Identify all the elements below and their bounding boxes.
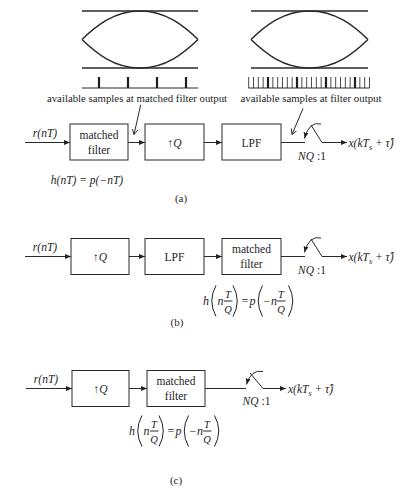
output-label-tail: + τ̂) [312,383,335,396]
sample-markers [249,77,370,88]
eye-trace [82,11,140,40]
decimation-ratio: :1 [314,264,326,276]
fraction-numerator: T [204,419,211,430]
formula-fn: h [203,294,209,308]
upsample-factor: Q [99,251,108,263]
matched-filter-block: matched filter [70,124,128,160]
fraction-denominator: Q [277,304,285,315]
formula-var: n [218,294,224,308]
block-label: matched [80,129,119,141]
multirate-matched-filter-figure: available samples at matched filter outp… [0,0,411,493]
fraction-denominator: Q [203,434,211,445]
equals-sign: = [242,294,249,308]
block-label: filter [240,258,263,270]
downsampling-switch [305,124,323,143]
matched-filter-block: matched filter [147,371,205,407]
fraction-numerator: T [278,289,285,300]
upsampler-block: ↑Q [71,239,129,275]
right-paren [159,416,163,447]
left-paren [212,286,216,317]
block-label: ↑Q [93,251,108,263]
output-label-main: x(kT [287,383,310,396]
decimation-factor: NQ [297,150,315,162]
block-label: LPF [242,137,262,149]
equals-sign: = [168,424,175,438]
switch-blade [250,373,263,389]
caption-b: (b) [171,316,184,329]
switch-blade [311,125,322,143]
upsampler-block: ↑Q [145,124,204,160]
fraction-denominator: Q [150,434,158,445]
matched-filter-block: matched filter [222,239,281,275]
annotation-filter-output: available samples at filter output [241,92,382,104]
decimation-factor: NQ [242,395,260,407]
block-diagram-c: r(nT) ↑Q matched filter x(kTs + τ̂) NQ :… [26,371,334,488]
switch-rotation-arrow-icon [247,371,264,384]
block-diagram-b: r(nT) ↑Q LPF matched filter x(kTs + τ̂) … [25,238,395,329]
block-label: filter [88,144,111,156]
minus-sign: − [264,294,271,308]
output-label: x(kTs + τ̂) [348,251,395,266]
block-label: LPF [165,251,185,263]
formula-var: n [197,424,203,438]
annotation-matched-filter-output: available samples at matched filter outp… [47,92,227,104]
block-label: ↑Q [167,137,182,149]
decimation-factor: NQ [297,264,315,276]
caption-a: (a) [175,192,188,205]
decimation-label: NQ :1 [297,264,326,276]
formula-fn: h [129,424,135,438]
block-label: matched [157,375,196,387]
upsample-factor: Q [173,137,182,149]
eye-trace [251,11,310,40]
downsampling-switch [305,238,323,257]
upsampler-block: ↑Q [72,371,129,407]
annotation-pointer-arrow [292,109,303,135]
eye-trace [140,11,198,40]
lpf-block: LPF [222,124,281,160]
switch-blade [311,239,322,257]
decimation-ratio: :1 [259,395,271,407]
eye-trace [251,40,310,69]
block-label: matched [232,243,271,255]
right-paren [233,286,237,317]
left-paren [138,416,142,447]
fraction-numerator: T [225,289,232,300]
eye-trace [310,11,369,40]
formula-var: n [144,424,150,438]
eye-trace [310,40,369,69]
sample-markers [99,77,186,88]
output-label-tail: + τ̂) [372,251,395,264]
downsampling-switch [247,371,264,388]
fraction-denominator: Q [224,304,232,315]
minus-sign: − [190,424,197,438]
decimation-ratio: :1 [314,150,326,162]
eye-diagram-matched-filter-output [82,11,198,88]
eye-trace [140,40,198,69]
block-diagram-a: r(nT) matched filter ↑Q LPF x(kTs + τ̂) … [25,105,395,205]
right-paren [215,416,219,447]
output-label-tail: + τ̂) [372,137,395,150]
input-label: r(nT) [34,373,58,386]
decimation-label: NQ :1 [297,150,326,162]
fraction-numerator: T [151,419,158,430]
block-label: ↑Q [93,383,108,395]
input-label: r(nT) [33,127,57,140]
output-label: x(kTs + τ̂) [348,137,395,152]
left-paren [184,416,188,447]
output-label-main: x(kT [348,137,371,150]
caption-c: (c) [170,474,183,487]
lpf-block: LPF [145,239,204,275]
block-label: filter [165,390,188,402]
output-label: x(kTs + τ̂) [287,383,334,398]
output-label-main: x(kT [348,251,371,264]
eye-diagram-filter-output [249,11,370,88]
formula-fn: p [175,424,182,438]
right-paren [289,286,293,317]
impulse-response-formula: h n T Q = p − n T Q [129,416,219,447]
impulse-response-formula: h(nT) = p(−nT) [51,174,124,187]
left-paren [258,286,262,317]
annotation-pointer-arrow [134,105,141,135]
formula-var: n [271,294,277,308]
upsample-factor: Q [99,383,108,395]
impulse-response-formula: h n T Q = p − n T Q [203,286,293,317]
